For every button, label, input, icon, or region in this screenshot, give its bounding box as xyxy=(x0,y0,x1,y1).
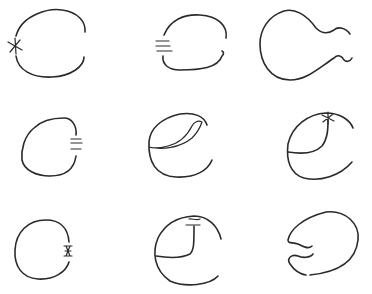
triple-bar-icon xyxy=(71,139,82,149)
panel-5-open-circle-leaf xyxy=(149,113,212,177)
triple-bar-icon xyxy=(156,41,172,51)
hourglass-asterisk-icon xyxy=(64,246,72,256)
sketch-canvas xyxy=(0,0,372,294)
panel-8-open-circle-bar xyxy=(155,216,221,285)
asterisk-icon xyxy=(8,38,22,54)
panel-4-open-circle-triple-bar xyxy=(22,118,82,176)
sketch-grid xyxy=(0,0,372,294)
panel-2-open-circle-triple-bar xyxy=(156,15,226,70)
panel-9-wavy-mouth xyxy=(288,212,358,275)
panel-3-bulb-wavy xyxy=(260,10,352,80)
panel-6-open-circle-asterisk xyxy=(288,112,353,179)
double-bar-squiggle-icon xyxy=(186,219,200,225)
panel-7-open-circle-hourglass xyxy=(15,220,72,279)
panel-1-open-circle-asterisk xyxy=(8,10,85,77)
